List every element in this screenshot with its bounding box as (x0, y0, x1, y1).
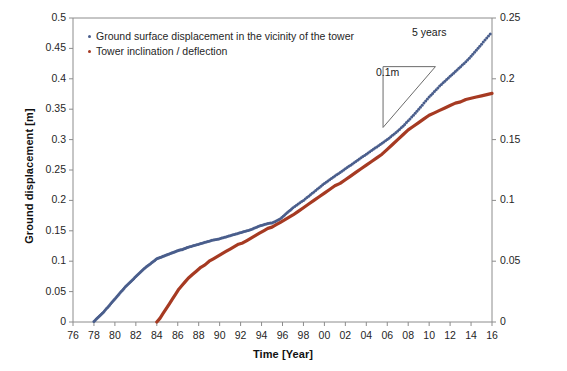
y-axis-right-tick-label: 0.05 (500, 254, 540, 266)
data-point (489, 33, 492, 36)
y-axis-right-tick-label: 0 (500, 315, 540, 327)
y-axis-left-tick-label: 0.25 (12, 163, 66, 175)
y-axis-left-tick-label: 0.3 (12, 133, 66, 145)
data-series-2 (157, 93, 492, 322)
y-axis-left-tick-label: 0.4 (12, 72, 66, 84)
legend-marker-icon (88, 35, 91, 38)
y-axis-left-tick-label: 0.5 (12, 11, 66, 23)
legend-label: Ground surface displacement in the vicin… (96, 30, 354, 42)
y-axis-right-tick-label: 0.15 (500, 133, 540, 145)
y-axis-left-tick-label: 0.35 (12, 102, 66, 114)
y-axis-left-tick-label: 0 (12, 315, 66, 327)
y-axis-left-tick-label: 0.15 (12, 224, 66, 236)
y-axis-right-tick-label: 0.25 (500, 11, 540, 23)
y-axis-left-title: Ground displacement [m] (23, 66, 35, 286)
y-axis-left-tick-label: 0.2 (12, 193, 66, 205)
data-series-1 (92, 33, 491, 323)
data-line (157, 93, 492, 322)
legend-label: Tower inclination / deflection (96, 45, 227, 57)
slope-rise-label: 0.1m (376, 66, 399, 78)
legend-item-tower-inclination: Tower inclination / deflection (88, 45, 227, 57)
x-axis-title: Time [Year] (73, 348, 493, 360)
y-axis-right-tick-label: 0.1 (500, 193, 540, 205)
slope-run-label: 5 years (412, 26, 446, 38)
legend-item-ground-displacement: Ground surface displacement in the vicin… (88, 30, 354, 42)
chart-figure: Ground displacement [m] Cumulative tower… (0, 0, 567, 371)
y-axis-left-tick-label: 0.1 (12, 254, 66, 266)
legend-marker-icon (88, 50, 91, 53)
chart-canvas (0, 0, 567, 371)
x-axis-tick-label: 16 (477, 329, 507, 341)
y-axis-left-tick-label: 0.45 (12, 41, 66, 53)
y-axis-left-tick-label: 0.05 (12, 285, 66, 297)
y-axis-right-tick-label: 0.2 (500, 72, 540, 84)
